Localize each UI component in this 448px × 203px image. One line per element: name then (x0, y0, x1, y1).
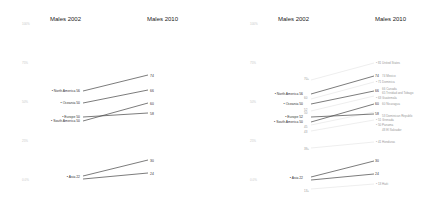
country-label: 48 El Salvador (382, 128, 402, 132)
label-2002-asia: • Asia 22 (67, 175, 80, 179)
tick-2002: 60 (304, 96, 308, 100)
country-label: • 13 Haiti (376, 182, 388, 186)
right-slopegraph: Males 2002 Males 2010 100% 75% 50% 25% 0… (224, 0, 448, 203)
y-tick-75: 75% (250, 61, 256, 65)
y-tick-50: 50% (22, 100, 28, 104)
y-tick-25: 25% (22, 139, 28, 143)
column-header-2010: Males 2010 (375, 16, 407, 22)
label-2010-60: 60 (150, 102, 154, 106)
label-2002-north-america: • North America 56 (275, 92, 303, 96)
column-header-2002: Males 2002 (50, 16, 82, 22)
line-north-america (311, 76, 374, 94)
left-slopegraph: Males 2002 Males 2010 100% 75% 50% 25% 0… (0, 0, 224, 203)
label-2002-oceania: • Oceania 50 (61, 101, 81, 105)
label-2002-europe: • Europe 52 (285, 115, 303, 119)
country-label: • 63 Guatemala (376, 96, 397, 100)
line-europe (83, 113, 148, 117)
country-label: • 41 Honduras (376, 140, 396, 144)
line-europe (311, 114, 374, 117)
label-2010-58: 58 (150, 112, 154, 116)
line-country-faint (311, 120, 374, 131)
line-country-faint (311, 142, 374, 148)
line-country-faint (311, 184, 374, 189)
label-2010-66: 66 (375, 89, 379, 93)
y-tick-75: 75% (22, 61, 28, 65)
label-2010-24: 24 (150, 172, 154, 176)
tick-2002: 39+ (304, 147, 309, 151)
country-label: 74 Mexico (382, 74, 396, 78)
label-2002-asia: • Asia 22 (290, 176, 303, 180)
y-tick-100: 100% (22, 22, 30, 26)
country-label: • 71 Dominica (376, 80, 395, 84)
country-label: 60 Nicaragua (382, 102, 400, 106)
label-2010-74: 74 (375, 74, 379, 78)
y-tick-50: 50% (250, 100, 256, 104)
label-2010-60: 60 (375, 102, 379, 106)
label-2010-30: 30 (150, 159, 154, 163)
line-country-faint (311, 96, 374, 111)
line-south-america (311, 104, 374, 122)
country-label: 65 Trinidad and Tobago (382, 91, 414, 95)
y-tick-0: 0.0% (250, 178, 257, 182)
line-country-faint (311, 82, 374, 99)
label-2010-74: 74 (150, 74, 154, 78)
column-header-2010: Males 2010 (147, 16, 179, 22)
line-country-faint (311, 63, 374, 80)
y-tick-0: 0.0% (22, 178, 29, 182)
tick-2002: 50 (304, 111, 308, 115)
line-oceania (311, 91, 374, 104)
line-south-america (83, 103, 148, 121)
tick-2002: 13+ (304, 189, 309, 193)
label-2010-24: 24 (375, 172, 379, 176)
tick-2002: 70+ (304, 77, 309, 81)
country-label: • 50 Panama (376, 123, 394, 127)
y-tick-100: 100% (250, 22, 258, 26)
label-2002-north-america: • North America 56 (52, 89, 80, 93)
line-north-america (83, 75, 148, 91)
y-tick-25: 25% (250, 139, 256, 143)
label-2002-oceania: • Oceania 50 (284, 102, 304, 106)
country-label: • 81 United States (376, 61, 401, 65)
column-header-2002: Males 2002 (278, 16, 310, 22)
label-2002-south-america: • South America 50 (274, 120, 303, 124)
label-2010-30: 30 (375, 159, 379, 163)
tick-2002: 43 (304, 130, 308, 134)
line-oceania (83, 90, 148, 103)
country-label: • 51 Grenada (376, 118, 394, 122)
label-2010-66: 66 (150, 89, 154, 93)
label-2010-58: 58 (375, 112, 379, 116)
label-2002-south-america: • South America 50 (51, 119, 80, 123)
line-country-faint (311, 112, 374, 125)
tick-2002: 45 (304, 125, 308, 129)
